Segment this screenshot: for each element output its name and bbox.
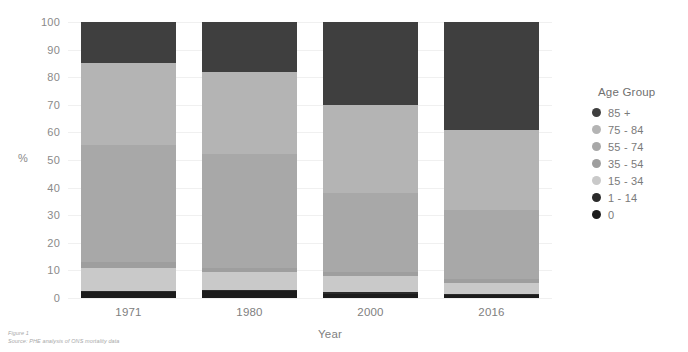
bar-column: 1980 bbox=[202, 0, 296, 312]
legend-label: 0 bbox=[608, 209, 614, 221]
bar-segment[interactable] bbox=[323, 22, 417, 105]
bar-column: 2016 bbox=[444, 0, 538, 312]
bar-column: 1971 bbox=[81, 0, 175, 312]
y-axis-tick-label: 60 bbox=[26, 126, 60, 138]
bar-segment[interactable] bbox=[323, 105, 417, 193]
bar-stack bbox=[81, 0, 175, 312]
y-axis-tick-label: 50 bbox=[26, 154, 60, 166]
y-axis-tick-label: 10 bbox=[26, 264, 60, 276]
legend-item[interactable]: 75 - 84 bbox=[592, 121, 688, 138]
y-axis-tick-label: 80 bbox=[26, 71, 60, 83]
bar-segment[interactable] bbox=[444, 22, 538, 130]
bar-segment[interactable] bbox=[81, 63, 175, 144]
x-axis-tick-label: 2016 bbox=[444, 306, 538, 318]
bar-segment[interactable] bbox=[81, 268, 175, 291]
stacked-bar-chart: % 1009080706050403020100 197119802000201… bbox=[0, 0, 688, 352]
y-axis-tick-label: 0 bbox=[26, 292, 60, 304]
bar-segment[interactable] bbox=[202, 22, 296, 72]
y-axis-tick-label: 70 bbox=[26, 99, 60, 111]
y-axis-tick-label: 40 bbox=[26, 182, 60, 194]
legend-item[interactable]: 15 - 34 bbox=[592, 172, 688, 189]
legend-label: 85 + bbox=[608, 107, 631, 119]
source-caption: Source: PHE analysis of ONS mortality da… bbox=[8, 338, 120, 346]
bar-segment[interactable] bbox=[323, 294, 417, 298]
legend: Age Group 85 +75 - 8455 - 7435 - 5415 - … bbox=[592, 86, 688, 223]
x-axis-tick-label: 1980 bbox=[202, 306, 296, 318]
bar-column: 2000 bbox=[323, 0, 417, 312]
bar-segment[interactable] bbox=[444, 283, 538, 294]
legend-item[interactable]: 1 - 14 bbox=[592, 189, 688, 206]
x-axis-title: Year bbox=[290, 328, 370, 340]
y-axis-tick-label: 100 bbox=[26, 16, 60, 28]
bar-segment[interactable] bbox=[323, 276, 417, 293]
y-axis-tick-label: 90 bbox=[26, 44, 60, 56]
legend-swatch-icon bbox=[592, 108, 601, 117]
legend-label: 55 - 74 bbox=[608, 141, 644, 153]
legend-item[interactable]: 85 + bbox=[592, 104, 688, 121]
legend-label: 15 - 34 bbox=[608, 175, 644, 187]
legend-swatch-icon bbox=[592, 210, 601, 219]
bar-segment[interactable] bbox=[323, 193, 417, 272]
plot-area: % 1009080706050403020100 197119802000201… bbox=[0, 0, 560, 312]
legend-label: 75 - 84 bbox=[608, 124, 644, 136]
x-axis-tick-label: 2000 bbox=[323, 306, 417, 318]
bar-series-group: 1971198020002016 bbox=[68, 0, 552, 312]
legend-swatch-icon bbox=[592, 125, 601, 134]
bar-segment[interactable] bbox=[202, 72, 296, 155]
legend-items: 85 +75 - 8455 - 7435 - 5415 - 341 - 140 bbox=[592, 104, 688, 223]
bar-segment[interactable] bbox=[81, 22, 175, 63]
bar-segment[interactable] bbox=[202, 154, 296, 267]
y-axis-tick-label: 20 bbox=[26, 237, 60, 249]
legend-swatch-icon bbox=[592, 176, 601, 185]
legend-label: 35 - 54 bbox=[608, 158, 644, 170]
bar-segment[interactable] bbox=[444, 295, 538, 298]
bar-stack bbox=[202, 0, 296, 312]
y-axis-tick-label: 30 bbox=[26, 209, 60, 221]
bar-segment[interactable] bbox=[81, 145, 175, 262]
y-axis-tick-labels: 1009080706050403020100 bbox=[26, 0, 60, 312]
legend-swatch-icon bbox=[592, 159, 601, 168]
bar-segment[interactable] bbox=[202, 291, 296, 298]
legend-item[interactable]: 55 - 74 bbox=[592, 138, 688, 155]
legend-item[interactable]: 35 - 54 bbox=[592, 155, 688, 172]
legend-label: 1 - 14 bbox=[608, 192, 637, 204]
legend-swatch-icon bbox=[592, 142, 601, 151]
legend-title: Age Group bbox=[598, 86, 688, 98]
legend-swatch-icon bbox=[592, 193, 601, 202]
figure-caption: Figure 1 bbox=[8, 330, 120, 338]
x-axis-tick-label: 1971 bbox=[81, 306, 175, 318]
legend-item[interactable]: 0 bbox=[592, 206, 688, 223]
footer: Figure 1 Source: PHE analysis of ONS mor… bbox=[8, 330, 120, 346]
bar-segment[interactable] bbox=[81, 292, 175, 298]
bar-segment[interactable] bbox=[202, 272, 296, 290]
bar-segment[interactable] bbox=[444, 210, 538, 279]
bar-stack bbox=[323, 0, 417, 312]
bar-segment[interactable] bbox=[444, 130, 538, 210]
bar-stack bbox=[444, 0, 538, 312]
